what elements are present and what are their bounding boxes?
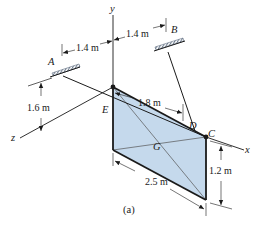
support-a-icon — [52, 64, 80, 76]
dim-ed-arrow-right — [165, 108, 182, 113]
point-a-label: A — [47, 56, 55, 67]
figure-caption: (a) — [123, 204, 135, 216]
dim-a-arrow-right — [100, 41, 112, 44]
dim-height-label: 1.6 m — [27, 102, 50, 113]
statics-diagram: 1.4 m 1.4 m 1.6 m 1.8 m 2.5 m 1.2 m A B … — [0, 0, 264, 229]
x-axis-label: x — [244, 144, 250, 155]
point-c-label: C — [208, 128, 216, 139]
dim-a-offset-label: 1.4 m — [76, 42, 99, 53]
dim-a-arrow-left — [63, 50, 75, 53]
support-b-icon — [155, 38, 184, 50]
point-e-dot — [111, 85, 116, 90]
y-axis-label: y — [109, 3, 115, 14]
dim-b-arrow-right — [153, 25, 165, 28]
point-g-label: G — [153, 141, 161, 152]
point-d-label: D — [188, 120, 197, 131]
dim-length-label: 2.5 m — [145, 176, 168, 187]
point-e-label: E — [101, 104, 109, 115]
z-axis-label: z — [10, 132, 15, 143]
dim-length-arrow-left — [115, 161, 135, 171]
dim-plate-height-label: 1.2 m — [209, 165, 232, 176]
dim-b-offset-label: 1.4 m — [126, 28, 149, 39]
point-b-label: B — [171, 24, 178, 35]
dim-b-arrow-left — [114, 37, 125, 40]
height-ref-line — [28, 78, 52, 86]
dim-ed-label: 1.8 m — [138, 97, 161, 108]
